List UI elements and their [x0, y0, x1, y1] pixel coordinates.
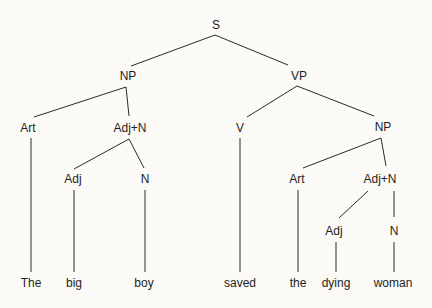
tree-edges	[0, 0, 432, 308]
node-n-right: N	[390, 225, 399, 237]
word-saved: saved	[224, 277, 256, 289]
node-art-left: Art	[20, 122, 35, 134]
edge-np-art	[34, 87, 126, 117]
node-art-right: Art	[289, 173, 304, 185]
edge-adjn-adj-right	[339, 191, 368, 218]
node-adj-right: Adj	[325, 225, 342, 237]
node-s: S	[212, 19, 220, 31]
edge-vp-v	[247, 86, 297, 117]
edge-s-np	[131, 35, 215, 66]
edge-adjn-adj-left	[74, 139, 129, 169]
word-woman: woman	[374, 277, 413, 289]
node-np-subject: NP	[120, 70, 137, 82]
edge-vp-np	[297, 86, 374, 116]
word-the-2: the	[290, 277, 307, 289]
edge-np-art-right	[303, 138, 381, 168]
node-adj-n-left: Adj+N	[113, 122, 146, 134]
node-n-left: N	[141, 173, 150, 185]
edge-np-adjn	[126, 87, 129, 116]
edge-np-adjn-right	[381, 138, 386, 166]
node-v: V	[236, 122, 244, 134]
word-big: big	[66, 277, 82, 289]
node-adj-left: Adj	[64, 173, 81, 185]
node-adj-n-right: Adj+N	[363, 173, 396, 185]
node-vp: VP	[291, 70, 307, 82]
word-dying: dying	[322, 277, 351, 289]
edge-s-vp	[215, 35, 288, 65]
node-np-object: NP	[375, 121, 392, 133]
edge-adjn-n-left	[129, 139, 144, 168]
word-boy: boy	[134, 277, 153, 289]
word-the: The	[21, 277, 42, 289]
